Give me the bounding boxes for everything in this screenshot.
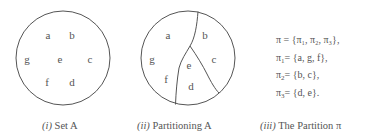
set-element-g: g — [24, 53, 30, 65]
equation-lhs: π — [276, 34, 281, 45]
set-element-b: b — [202, 29, 208, 41]
caption-text: Set A — [55, 120, 78, 131]
caption-number: (iii) — [260, 120, 276, 131]
set-element-c: c — [88, 53, 93, 65]
partitioning-elements: abgecfd — [149, 29, 216, 92]
set-element-e: e — [58, 53, 63, 65]
partitioning-panel: abgecfd — [141, 11, 235, 105]
caption-set-a: (i) Set A — [42, 120, 78, 131]
equation-rhs: = {π₁, π₂, π₃}, — [284, 34, 340, 45]
caption-partitioning-a: (ii) Partitioning A — [137, 120, 212, 131]
equation-rhs: = {d, e}. — [285, 87, 320, 98]
equation-pi-3: π3= {d, e}. — [276, 86, 339, 104]
equation-pi: π = {π₁, π₂, π₃}, — [276, 33, 339, 51]
set-element-f: f — [164, 73, 168, 85]
partition-figure: abgecfd abgecfd π = {π₁, π₂, π₃}, π1= {a… — [0, 0, 376, 138]
set-element-a: a — [46, 29, 51, 41]
partition-boundary-main — [176, 12, 199, 105]
caption-number: (i) — [42, 120, 52, 131]
partition-equations: π = {π₁, π₂, π₃}, π1= {a, g, f}, π2= {b,… — [276, 33, 339, 103]
caption-text: Partitioning A — [152, 120, 211, 131]
set-element-f: f — [45, 76, 49, 88]
set-element-d: d — [188, 80, 194, 92]
set-a-panel: abgecfd — [16, 11, 110, 105]
set-element-g: g — [149, 53, 155, 65]
equation-rhs: = {a, g, f}, — [285, 52, 328, 63]
equation-pi-1: π1= {a, g, f}, — [276, 51, 339, 69]
set-a-circle — [16, 11, 110, 105]
caption-number: (ii) — [137, 120, 150, 131]
set-element-b: b — [69, 29, 75, 41]
set-element-c: c — [212, 53, 217, 65]
set-element-e: e — [187, 59, 192, 71]
caption-text: The Partition π — [278, 120, 341, 131]
equation-pi-2: π2= {b, c}, — [276, 68, 339, 86]
set-element-d: d — [69, 76, 75, 88]
set-element-a: a — [166, 29, 171, 41]
caption-the-partition: (iii) The Partition π — [260, 120, 341, 131]
equation-rhs: = {b, c}, — [285, 69, 320, 80]
set-a-elements: abgecfd — [24, 29, 92, 88]
